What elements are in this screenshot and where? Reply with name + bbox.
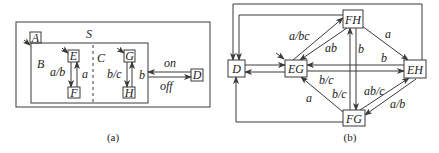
label-off: off	[160, 79, 174, 93]
state-h-label: H	[124, 86, 135, 100]
label-b-slash-c-eg-eh: b/c	[319, 73, 334, 87]
state-eh-label: EH	[406, 63, 424, 77]
state-d-label-a: D	[192, 68, 202, 82]
state-eg-label: EG	[287, 62, 304, 76]
diagram-a: S A B E F a/b a C G H b/c b D	[16, 22, 210, 144]
state-e-label: E	[69, 49, 78, 63]
diagram-b: a/bc ab b b/c a b b/c a ab/c a/b D EG FH	[228, 4, 426, 144]
state-g-label: G	[125, 49, 134, 63]
label-a-fg-eg: a	[306, 91, 312, 105]
label-a-slash-bc: a/bc	[289, 29, 310, 43]
label-b: b	[139, 68, 145, 82]
label-a-slash-b-eh-fg: a/b	[390, 97, 405, 111]
label-ab: ab	[325, 41, 337, 55]
state-fh-label: FH	[344, 13, 362, 27]
superstate-s-label: S	[86, 27, 92, 41]
statechart-figure: S A B E F a/b a C G H b/c b D	[0, 0, 439, 153]
region-c-label: C	[97, 51, 106, 65]
label-a-slash-b: a/b	[50, 65, 65, 79]
superstate-s-box	[16, 22, 210, 107]
label-ab-slash-c: ab/c	[364, 84, 385, 98]
state-fg-label: FG	[345, 112, 362, 126]
default-arrow-eg	[276, 53, 284, 59]
label-on: on	[164, 56, 176, 70]
state-a-label: A	[31, 31, 40, 45]
caption-a: (a)	[107, 131, 120, 144]
label-b-slash-c-fg-fh: b/c	[332, 87, 347, 101]
label-b-eh-eg: b	[381, 51, 387, 65]
region-b-label: B	[37, 57, 45, 71]
caption-b: (b)	[344, 131, 357, 144]
label-a-fh-eh: a	[385, 27, 391, 41]
label-a: a	[82, 67, 88, 81]
label-b-fh-fg: b	[358, 42, 364, 56]
label-b-slash-c: b/c	[107, 67, 122, 81]
state-f-label: F	[69, 86, 78, 100]
state-d-label-b: D	[231, 62, 241, 76]
